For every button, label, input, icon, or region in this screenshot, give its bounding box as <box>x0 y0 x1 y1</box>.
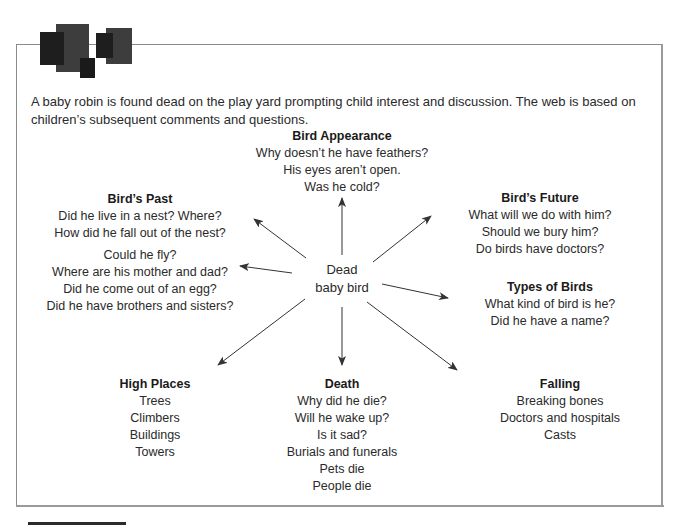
node-title: High Places <box>90 376 220 393</box>
logo-square <box>80 58 95 78</box>
node-item: Could he fly? <box>30 247 250 264</box>
node-item: Burials and funerals <box>262 444 422 461</box>
node-item: Doctors and hospitals <box>480 410 640 427</box>
decorative-logo-overlay <box>0 0 681 90</box>
node-title: Bird’s Past <box>30 191 250 208</box>
node-item: His eyes aren’t open. <box>222 162 462 179</box>
center-node: Dead baby bird <box>300 261 384 297</box>
node-item: Did he live in a nest? Where? <box>30 208 250 225</box>
node-title: Bird’s Future <box>440 190 640 207</box>
node-item: Why did he die? <box>262 393 422 410</box>
node-item: Pets die <box>262 461 422 478</box>
logo-square <box>96 33 113 58</box>
node-item: What will we do with him? <box>440 207 640 224</box>
node-falling: Falling Breaking bones Doctors and hospi… <box>480 376 640 444</box>
node-high-places: High Places Trees Climbers Buildings Tow… <box>90 376 220 461</box>
node-title: Death <box>262 376 422 393</box>
node-birds-past: Bird’s Past Did he live in a nest? Where… <box>30 191 250 315</box>
node-item: Why doesn’t he have feathers? <box>222 145 462 162</box>
node-item: Did he come out of an egg? <box>30 281 250 298</box>
node-item: Should we bury him? <box>440 224 640 241</box>
logo-square <box>40 32 64 65</box>
node-item: Climbers <box>90 410 220 427</box>
node-death: Death Why did he die? Will he wake up? I… <box>262 376 422 495</box>
node-item: What kind of bird is he? <box>450 296 650 313</box>
node-types-of-birds: Types of Birds What kind of bird is he? … <box>450 279 650 330</box>
node-item: Did he have brothers and sisters? <box>30 298 250 315</box>
node-item: Buildings <box>90 427 220 444</box>
node-title: Types of Birds <box>450 279 650 296</box>
node-item: Trees <box>90 393 220 410</box>
frame-bottom-edge <box>16 505 664 507</box>
node-item: Did he have a name? <box>450 313 650 330</box>
intro-paragraph: A baby robin is found dead on the play y… <box>31 93 651 129</box>
node-item: Where are his mother and dad? <box>30 264 250 281</box>
center-line-1: Dead <box>300 261 384 279</box>
node-item: Do birds have doctors? <box>440 241 640 258</box>
node-birds-future: Bird’s Future What will we do with him? … <box>440 190 640 258</box>
node-bird-appearance: Bird Appearance Why doesn’t he have feat… <box>222 128 462 196</box>
frame-right-edge <box>661 44 663 507</box>
node-item: People die <box>262 478 422 495</box>
node-title: Falling <box>480 376 640 393</box>
node-item: Will he wake up? <box>262 410 422 427</box>
node-item: Towers <box>90 444 220 461</box>
node-title: Bird Appearance <box>222 128 462 145</box>
node-item: Breaking bones <box>480 393 640 410</box>
node-item: Was he cold? <box>222 179 462 196</box>
node-item: Is it sad? <box>262 427 422 444</box>
center-line-2: baby bird <box>300 279 384 297</box>
node-item: How did he fall out of the nest? <box>30 225 250 242</box>
node-item: Casts <box>480 427 640 444</box>
